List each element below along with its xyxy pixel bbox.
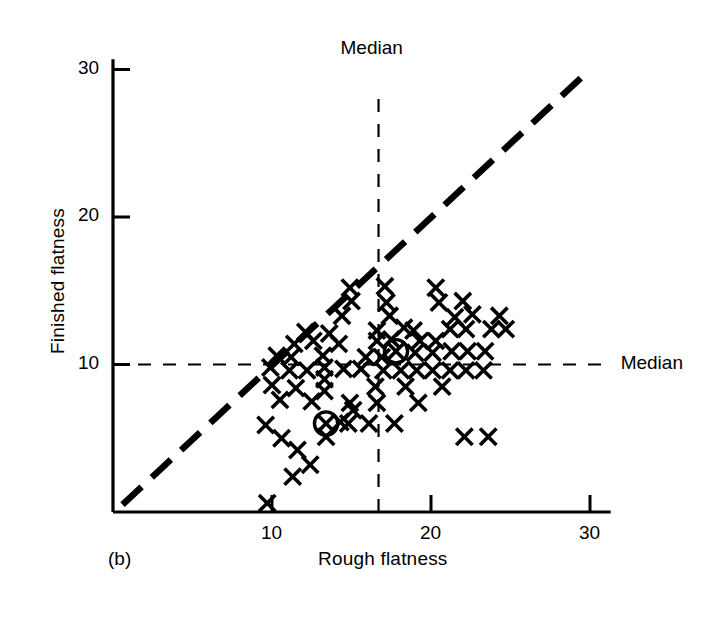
y-tick-label-30: 30 xyxy=(78,57,99,79)
data-point xyxy=(455,293,471,309)
data-point xyxy=(288,380,304,396)
data-point xyxy=(431,294,447,310)
data-point xyxy=(381,308,397,324)
data-point xyxy=(459,343,475,359)
x-axis-title: Rough flatness xyxy=(318,548,448,570)
data-point xyxy=(335,361,351,377)
data-point xyxy=(480,429,496,445)
data-point xyxy=(397,378,413,394)
data-point xyxy=(334,308,350,324)
y-tick-label-10: 10 xyxy=(78,352,99,374)
data-point xyxy=(410,395,426,411)
data-point xyxy=(378,294,394,310)
data-point xyxy=(386,415,402,431)
data-point xyxy=(257,417,273,433)
data-point xyxy=(424,362,440,378)
data-point xyxy=(477,343,493,359)
median-vertical-label: Median xyxy=(341,37,403,59)
scatter-plot-figure: Finished flatness Rough flatness (b) 30 … xyxy=(0,0,703,617)
x-tick-label-30: 30 xyxy=(579,522,600,544)
data-point xyxy=(464,306,480,322)
y-tick-label-20: 20 xyxy=(78,204,99,226)
data-point xyxy=(443,343,459,359)
data-point xyxy=(273,430,289,446)
data-point xyxy=(272,392,288,408)
data-point xyxy=(361,415,377,431)
data-point xyxy=(342,280,358,296)
data-point xyxy=(289,442,305,458)
data-point xyxy=(428,280,444,296)
data-point xyxy=(315,347,331,363)
data-point xyxy=(299,362,315,378)
data-point xyxy=(369,395,385,411)
data-point xyxy=(284,468,300,484)
panel-label: (b) xyxy=(108,548,131,570)
data-point xyxy=(475,362,491,378)
data-point xyxy=(434,378,450,394)
data-point xyxy=(456,429,472,445)
data-point xyxy=(264,377,280,393)
median-horizontal-label: Median xyxy=(621,352,683,374)
data-point xyxy=(367,378,383,394)
y-axis-title: Finished flatness xyxy=(47,191,69,371)
x-tick-label-10: 10 xyxy=(261,522,282,544)
x-tick-label-20: 20 xyxy=(420,522,441,544)
data-point xyxy=(321,325,337,341)
